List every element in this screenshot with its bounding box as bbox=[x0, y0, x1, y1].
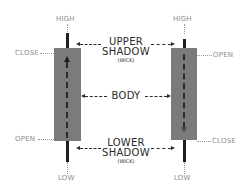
left-close-label: CLOSE bbox=[15, 49, 39, 57]
upper-shadow-wick-sublabel: (WICK) bbox=[111, 57, 141, 63]
body-left-line bbox=[85, 96, 107, 97]
body-label: BODY bbox=[106, 91, 146, 101]
right-body-arrow-shaft bbox=[183, 54, 185, 128]
upper-shadow-left-line bbox=[80, 44, 101, 45]
down-arrow-icon bbox=[181, 127, 187, 133]
left-open-label: OPEN bbox=[15, 135, 35, 143]
upper-shadow-right-arrow-icon bbox=[171, 42, 175, 46]
body-right-line bbox=[145, 96, 167, 97]
right-open-label: OPEN bbox=[213, 51, 233, 59]
lower-shadow-label-line2: SHADOW bbox=[96, 148, 156, 158]
right-high-dotted-line bbox=[184, 24, 185, 34]
left-close-dotted-line bbox=[40, 53, 54, 54]
body-right-arrow-icon bbox=[167, 94, 171, 98]
up-arrow-icon bbox=[64, 56, 70, 62]
right-close-label: CLOSE bbox=[212, 137, 236, 145]
left-high-label: HIGH bbox=[56, 15, 75, 23]
right-lower-wick bbox=[183, 140, 186, 162]
left-lower-wick bbox=[66, 141, 69, 162]
left-open-dotted-line bbox=[38, 139, 54, 140]
right-close-dotted-line bbox=[197, 141, 211, 142]
right-low-dotted-line bbox=[184, 162, 185, 174]
right-open-dotted-line bbox=[197, 55, 212, 56]
left-low-dotted-line bbox=[67, 162, 68, 174]
right-low-label: LOW bbox=[174, 174, 191, 182]
left-low-label: LOW bbox=[58, 174, 75, 182]
lower-shadow-wick-sublabel: (WICK) bbox=[111, 158, 141, 164]
upper-shadow-right-line bbox=[151, 44, 171, 45]
candlestick-diagram: HIGH LOW CLOSE OPEN HIGH LOW OPEN CLOSE … bbox=[0, 0, 252, 190]
right-high-label: HIGH bbox=[173, 15, 192, 23]
left-upper-wick bbox=[66, 33, 69, 49]
lower-shadow-left-line bbox=[80, 148, 101, 149]
lower-shadow-right-arrow-icon bbox=[171, 146, 175, 150]
lower-shadow-right-line bbox=[151, 148, 171, 149]
left-body-arrow-shaft bbox=[66, 62, 68, 138]
upper-shadow-label-line2: SHADOW bbox=[96, 47, 156, 57]
